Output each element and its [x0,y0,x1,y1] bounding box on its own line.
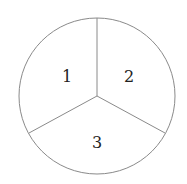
spinner-diagram: 1 2 3 [0,0,187,184]
sector-label-1: 1 [62,67,72,86]
sector-label-3: 3 [92,133,102,152]
sector-label-2: 2 [124,67,134,86]
